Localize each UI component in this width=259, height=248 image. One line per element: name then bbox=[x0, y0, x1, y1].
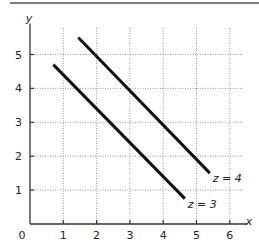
y-tick-label: 4 bbox=[15, 82, 22, 95]
series-line bbox=[78, 38, 210, 174]
x-tick-label: 1 bbox=[60, 229, 67, 242]
x-tick-label: 3 bbox=[126, 229, 133, 242]
grid bbox=[30, 27, 243, 224]
y-tick-label: 2 bbox=[15, 150, 22, 163]
origin-label: 0 bbox=[19, 229, 26, 242]
x-tick-label: 2 bbox=[93, 229, 100, 242]
y-axis-label: y bbox=[25, 12, 33, 25]
series-label: z = 3 bbox=[187, 198, 217, 211]
x-tick-label: 5 bbox=[193, 229, 200, 242]
series-line bbox=[53, 65, 185, 199]
y-tick-label: 1 bbox=[15, 184, 22, 197]
x-tick-label: 4 bbox=[160, 229, 167, 242]
axes bbox=[30, 23, 247, 224]
x-tick-label: 6 bbox=[226, 229, 233, 242]
x-axis-label: x bbox=[245, 215, 253, 228]
data-lines bbox=[53, 38, 210, 199]
y-tick-label: 3 bbox=[15, 116, 22, 129]
series-label: z = 4 bbox=[212, 172, 242, 185]
labels: 123456123450xyz = 3z = 4 bbox=[15, 12, 253, 242]
chart: 123456123450xyz = 3z = 4 bbox=[0, 0, 259, 248]
y-tick-label: 5 bbox=[15, 49, 22, 62]
